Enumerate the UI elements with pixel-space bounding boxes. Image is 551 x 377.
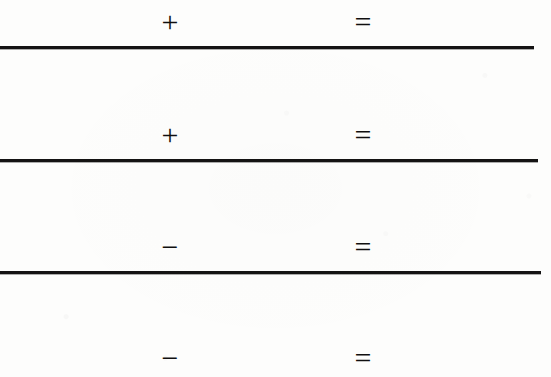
plus-sign-icon: + bbox=[140, 2, 200, 42]
minus-sign-icon: − bbox=[140, 227, 200, 267]
worksheet-page: Arithmetic problems worksheet + = + = − … bbox=[0, 0, 551, 377]
equals-sign-icon: = bbox=[333, 338, 393, 377]
problem-row: + = bbox=[0, 2, 551, 42]
answer-slot[interactable] bbox=[398, 227, 544, 267]
answer-slot[interactable] bbox=[398, 338, 544, 377]
equals-sign-icon: = bbox=[333, 2, 393, 42]
problem-row: − = bbox=[0, 338, 551, 377]
problem-rule bbox=[0, 159, 538, 162]
answer-slot[interactable] bbox=[398, 115, 544, 155]
first-operand-slot[interactable] bbox=[6, 338, 136, 377]
problem-row: − = bbox=[0, 227, 551, 267]
plus-sign-icon: + bbox=[140, 115, 200, 155]
second-operand-slot[interactable] bbox=[205, 338, 329, 377]
answer-slot[interactable] bbox=[398, 2, 544, 42]
minus-sign-icon: − bbox=[140, 338, 200, 377]
equals-sign-icon: = bbox=[333, 227, 393, 267]
problem-row: + = bbox=[0, 115, 551, 155]
scan-paper-texture bbox=[0, 0, 551, 377]
second-operand-slot[interactable] bbox=[205, 115, 329, 155]
equals-sign-icon: = bbox=[333, 115, 393, 155]
first-operand-slot[interactable] bbox=[6, 227, 136, 267]
first-operand-slot[interactable] bbox=[6, 2, 136, 42]
problem-rule bbox=[0, 271, 541, 274]
problem-rule bbox=[0, 46, 534, 49]
second-operand-slot[interactable] bbox=[205, 227, 329, 267]
first-operand-slot[interactable] bbox=[6, 115, 136, 155]
second-operand-slot[interactable] bbox=[205, 2, 329, 42]
